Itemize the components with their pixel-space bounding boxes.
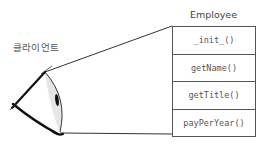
class-box: _init_() getName() getTitle() payPerYear…: [172, 26, 256, 137]
client-label: 클라이언트: [13, 40, 59, 54]
class-title: Employee: [172, 9, 255, 20]
method-pay-per-year: payPerYear(): [173, 110, 255, 137]
method-get-name: getName(): [173, 55, 255, 83]
sight-line-bottom: [60, 133, 172, 134]
eye-icon: [10, 66, 63, 135]
method-init: _init_(): [173, 27, 255, 55]
method-get-title: getTitle(): [173, 82, 255, 110]
sight-line-top: [45, 26, 172, 72]
